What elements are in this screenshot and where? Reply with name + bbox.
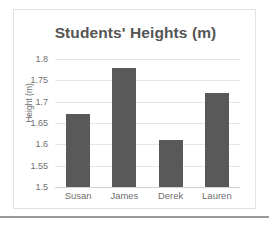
x-axis-tick-label: Derek — [158, 190, 183, 201]
y-axis-tick-label: 1.5 — [35, 182, 48, 192]
chart-container: Students' Heights (m) Height (m) 1.51.55… — [13, 9, 256, 209]
bar-susan[interactable] — [66, 114, 90, 187]
gridline — [55, 187, 240, 188]
chart-title: Students' Heights (m) — [14, 24, 257, 42]
page-bottom-band — [0, 216, 269, 229]
x-axis-tick-label: James — [110, 190, 138, 201]
x-axis-tick-label: Lauren — [202, 190, 232, 201]
plot-area — [55, 59, 240, 187]
bar-series — [55, 59, 240, 187]
x-axis-tick-label: Susan — [65, 190, 92, 201]
y-axis-tick-labels: 1.51.551.61.651.71.751.8 — [14, 59, 52, 187]
bar-slot — [194, 59, 240, 187]
bar-lauren[interactable] — [205, 93, 229, 187]
bar-james[interactable] — [112, 68, 136, 187]
y-axis-tick-label: 1.6 — [35, 139, 48, 149]
chart-screenshot: Students' Heights (m) Height (m) 1.51.55… — [0, 0, 269, 229]
bar-slot — [148, 59, 194, 187]
y-axis-tick-label: 1.7 — [35, 97, 48, 107]
bar-derek[interactable] — [159, 140, 183, 187]
bar-slot — [101, 59, 147, 187]
y-axis-tick-label: 1.55 — [30, 161, 48, 171]
y-axis-tick-label: 1.65 — [30, 118, 48, 128]
bar-slot — [55, 59, 101, 187]
y-axis-tick-label: 1.75 — [30, 75, 48, 85]
y-axis-tick-label: 1.8 — [35, 54, 48, 64]
x-axis-tick-labels: SusanJamesDerekLauren — [55, 190, 240, 206]
